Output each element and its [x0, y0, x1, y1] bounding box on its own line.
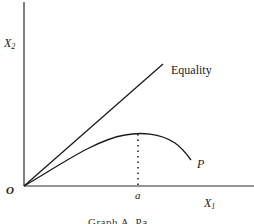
curve-p-label: P: [196, 157, 205, 171]
peak-marker-label: a: [135, 189, 141, 201]
y-axis-label: X2: [3, 36, 15, 51]
curve-p: [24, 134, 191, 186]
figure-caption: Graph A. Pa: [88, 216, 148, 224]
equality-line: [24, 64, 163, 186]
diagram-canvas: X2 O X1 Equality P a Graph A. Pa: [0, 0, 254, 224]
equality-label: Equality: [171, 63, 212, 77]
x-axis-label: X1: [203, 196, 215, 211]
origin-label: O: [6, 184, 14, 196]
